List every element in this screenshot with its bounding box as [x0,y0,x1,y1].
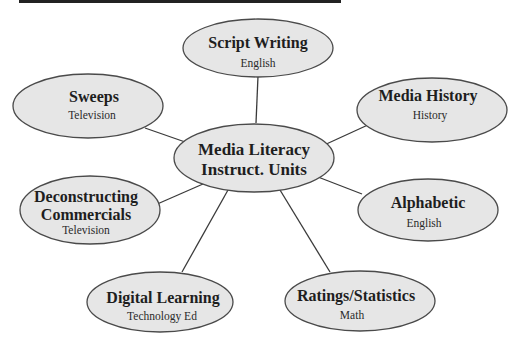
connector-deconstructing [155,184,203,205]
node-digital-learning: Digital Learning Technology Ed [87,272,233,332]
connector-media-history [322,124,370,146]
connector-digital-learning [182,190,228,272]
node-title: Ratings/Statistics [297,287,415,305]
connector-alphabetic [318,177,362,194]
node-title: Sweeps [69,88,119,106]
node-deconstructing-commercials: Deconstructing Commercials Television [20,176,160,244]
node-title-line2: Commercials [41,206,131,223]
node-title: Script Writing [208,34,307,52]
node-alphabetic: Alphabetic English [358,179,498,241]
node-subject: English [406,217,441,230]
concept-map: Script Writing English Sweeps Television… [0,0,518,348]
node-title-line1: Deconstructing [34,188,138,206]
node-subject: History [413,109,448,122]
connector-sweeps [145,128,188,143]
node-subject: English [240,57,275,70]
node-subject: Television [68,109,116,121]
node-subject: Math [340,309,365,321]
node-title: Alphabetic [391,194,466,212]
node-title: Digital Learning [106,289,219,307]
center-title-line1: Media Literacy [198,140,310,159]
node-ratings-statistics: Ratings/Statistics Math [285,271,435,331]
connector-ratings [280,190,330,272]
center-title-line2: Instruct. Units [201,160,307,179]
node-script-writing: Script Writing English [183,19,333,77]
connector-script-writing [256,76,258,123]
node-title: Media History [378,87,477,105]
node-subject: Technology Ed [127,310,197,323]
node-subject: Television [62,224,110,236]
node-media-history: Media History History [357,78,507,142]
node-sweeps: Sweeps Television [13,74,163,138]
node-center: Media Literacy Instruct. Units [174,124,334,192]
